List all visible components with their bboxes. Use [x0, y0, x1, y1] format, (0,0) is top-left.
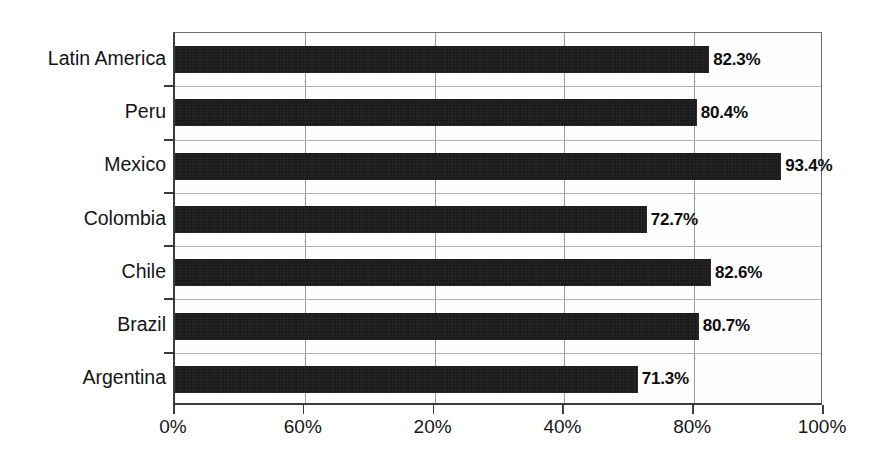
category-axis-tick [164, 85, 173, 87]
category-axis-tick [164, 192, 173, 194]
value-axis-label: 40% [543, 417, 581, 436]
value-axis-label: 60% [284, 417, 322, 436]
category-axis-tick [164, 139, 173, 141]
value-label: 80.7% [703, 317, 750, 334]
value-axis-label: 0% [159, 417, 186, 436]
value-label: 72.7% [651, 211, 698, 228]
value-label: 71.3% [642, 370, 689, 387]
band-separator [175, 299, 821, 300]
bar [175, 259, 711, 286]
band-separator [175, 246, 821, 247]
category-axis-tick [164, 352, 173, 354]
value-axis-tick [692, 405, 694, 414]
category-axis-tick [164, 245, 173, 247]
value-label: 93.4% [785, 157, 832, 174]
bar [175, 99, 697, 126]
category-label: Argentina [83, 368, 166, 388]
band-separator [175, 140, 821, 141]
value-axis-tick [303, 405, 305, 414]
value-axis-label: 20% [414, 417, 452, 436]
value-axis-label: 80% [673, 417, 711, 436]
category-label: Peru [125, 102, 166, 122]
category-axis-tick [164, 298, 173, 300]
bar [175, 46, 709, 73]
bar [175, 206, 647, 233]
bar [175, 366, 638, 393]
category-label: Colombia [84, 209, 166, 229]
category-label: Brazil [117, 315, 166, 335]
category-label: Latin America [48, 49, 166, 69]
value-label: 80.4% [701, 104, 748, 121]
band-separator [175, 193, 821, 194]
plot-area [173, 32, 822, 405]
bar [175, 313, 699, 340]
band-separator [175, 86, 821, 87]
category-label: Chile [122, 262, 166, 282]
value-axis-tick [822, 405, 824, 414]
value-axis-tick [562, 405, 564, 414]
value-axis-tick [433, 405, 435, 414]
bar-chart: Latin AmericaPeruMexicoColombiaChileBraz… [0, 0, 870, 460]
value-axis-label: 100% [798, 417, 847, 436]
category-label: Mexico [104, 155, 166, 175]
value-axis-tick [173, 405, 175, 414]
band-separator [175, 353, 821, 354]
value-label: 82.6% [715, 264, 762, 281]
value-label: 82.3% [713, 51, 760, 68]
bar [175, 153, 781, 180]
